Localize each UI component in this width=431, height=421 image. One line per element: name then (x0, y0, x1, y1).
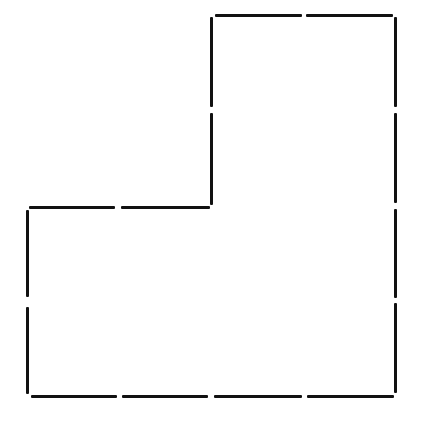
matchstick-bottom-1 (31, 395, 117, 398)
matchstick-middle-1 (29, 206, 115, 209)
matchstick-right-1 (394, 17, 397, 107)
matchstick-l-shape-figure (0, 0, 431, 421)
matchstick-bottom-3 (214, 395, 302, 398)
matchstick-right-3 (394, 209, 397, 298)
matchstick-middle-2 (121, 206, 210, 209)
matchstick-right-2 (394, 113, 397, 203)
matchstick-left-1 (26, 210, 29, 297)
matchstick-bottom-2 (122, 395, 208, 398)
matchstick-inner-vertical-2 (210, 113, 213, 205)
matchstick-left-2 (26, 307, 29, 394)
matchstick-bottom-4 (307, 395, 394, 398)
matchstick-top-2 (306, 14, 393, 17)
matchstick-top-1 (215, 14, 302, 17)
matchstick-right-4 (394, 303, 397, 393)
matchstick-inner-vertical-1 (210, 17, 213, 107)
